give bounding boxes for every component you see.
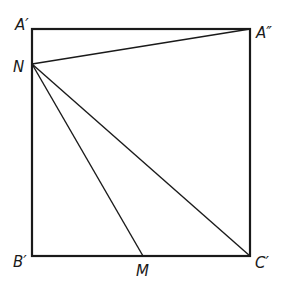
segment-n-m — [32, 64, 143, 256]
segment-n-a-double-prime — [32, 29, 250, 64]
label-a-prime: A′ — [14, 16, 29, 34]
label-n: N — [13, 58, 24, 76]
label-c-prime: C′ — [255, 254, 269, 272]
label-a-double-prime: A″ — [255, 24, 272, 42]
label-m: M — [136, 262, 149, 280]
label-b-prime: B′ — [13, 253, 27, 271]
square-outline — [32, 29, 250, 256]
segment-n-c-prime — [32, 64, 250, 256]
geometry-diagram: A′ A″ N B′ M C′ — [0, 0, 286, 290]
